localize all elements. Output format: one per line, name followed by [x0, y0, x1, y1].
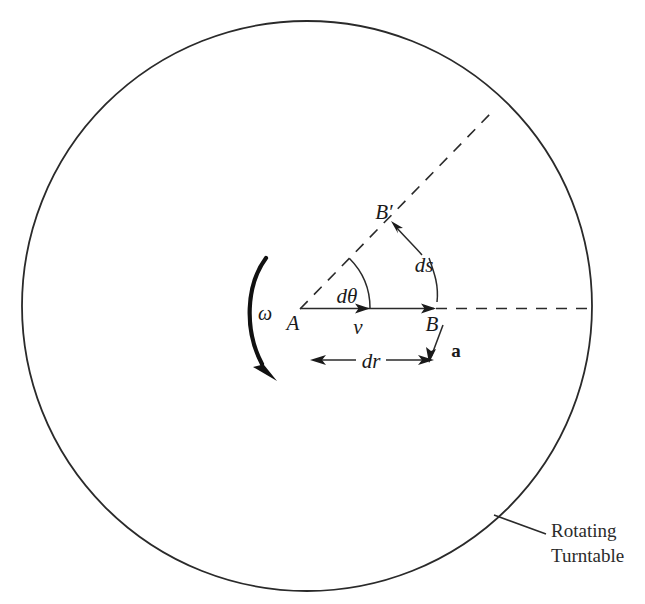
- label-point-b: B: [426, 312, 439, 336]
- turntable-diagram: A B B′ v a ω dθ ds dr Rotating Turntable…: [0, 0, 645, 604]
- label-velocity: v: [353, 315, 363, 339]
- label-dr-top: dr: [362, 349, 382, 373]
- label-point-b-prime: B′: [375, 200, 393, 224]
- label-point-a: A: [285, 311, 300, 335]
- dashed-radius-line: [300, 112, 492, 309]
- label-acceleration: a: [451, 340, 461, 361]
- label-omega: ω: [258, 302, 272, 324]
- label-d-theta: dθ: [337, 284, 358, 308]
- turntable-label-line2: Turntable: [551, 545, 624, 566]
- ds-leader-upper: [396, 227, 422, 255]
- omega-arrowhead: [253, 355, 277, 381]
- turntable-circle: [22, 21, 592, 591]
- turntable-leader-line: [494, 515, 546, 534]
- figure-root: A B B′ v a ω dθ ds dr Rotating Turntable…: [0, 0, 645, 604]
- label-ds: ds: [415, 253, 434, 277]
- turntable-label-line1: Rotating: [551, 520, 617, 541]
